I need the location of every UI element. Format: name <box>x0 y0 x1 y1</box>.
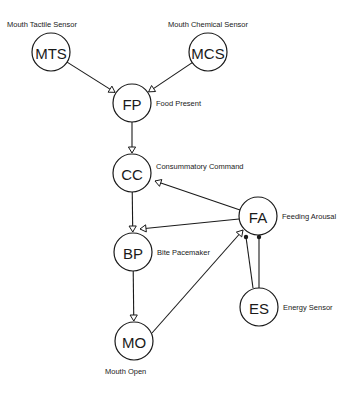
node-label: Energy Sensor <box>283 303 333 312</box>
edge-mo-to-fa <box>152 230 243 333</box>
node-mcs: MCSMouth Chemical Sensor <box>168 20 249 71</box>
excitatory-arrowhead-icon <box>128 147 135 153</box>
node-fp: FPFood Present <box>113 84 202 122</box>
excitatory-arrowhead-icon <box>140 225 146 232</box>
edge-fa-to-bp <box>140 219 239 229</box>
node-cc: CCConsummatory Command <box>113 154 244 192</box>
node-label: Bite Pacemaker <box>157 248 210 257</box>
node-abbreviation: FA <box>249 209 267 226</box>
node-mts: MTSMouth Tactile Sensor <box>7 20 77 71</box>
excitatory-arrowhead-icon <box>155 180 162 187</box>
excitatory-arrowhead-icon <box>149 86 156 92</box>
edge-fa-to-cc <box>155 181 240 210</box>
node-mo: MOMouth Open <box>105 322 153 376</box>
node-abbreviation: MTS <box>35 45 67 62</box>
node-label: Mouth Chemical Sensor <box>168 20 249 29</box>
edge-mcs-to-fp <box>149 63 193 92</box>
node-es: ESEnergy Sensor <box>240 288 333 326</box>
node-label: Mouth Tactile Sensor <box>7 20 77 29</box>
nodes-layer: MTSMouth Tactile SensorMCSMouth Chemical… <box>7 20 337 376</box>
node-label: Feeding Arousal <box>282 212 337 221</box>
edge-es-to-fa <box>246 237 253 288</box>
node-bp: BPBite Pacemaker <box>114 233 210 271</box>
node-abbreviation: ES <box>249 300 269 317</box>
inhibitory-dot-icon <box>244 235 248 239</box>
node-label: Consummatory Command <box>156 162 244 171</box>
diagram-svg: MTSMouth Tactile SensorMCSMouth Chemical… <box>0 0 352 394</box>
neural-circuit-diagram: MTSMouth Tactile SensorMCSMouth Chemical… <box>0 0 352 394</box>
node-abbreviation: MO <box>122 334 146 351</box>
excitatory-arrowhead-icon <box>130 315 137 321</box>
node-label: Food Present <box>156 99 202 108</box>
edge-bp-to-mo <box>133 271 134 321</box>
node-label: Mouth Open <box>105 367 146 376</box>
node-abbreviation: BP <box>123 245 143 262</box>
excitatory-arrowhead-icon <box>129 226 136 232</box>
node-abbreviation: FP <box>122 96 141 113</box>
edge-mts-to-fp <box>67 62 115 92</box>
node-abbreviation: CC <box>121 166 143 183</box>
node-fa: FAFeeding Arousal <box>239 197 337 235</box>
node-abbreviation: MCS <box>191 45 224 62</box>
